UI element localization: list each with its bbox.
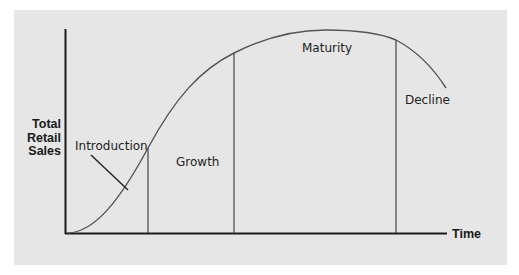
introduction-pointer-line: [91, 155, 128, 190]
stage-label-growth: Growth: [176, 156, 219, 168]
stage-label-maturity: Maturity: [302, 42, 352, 54]
y-axis-label-line-2: Retail: [27, 132, 61, 146]
stage-label-decline: Decline: [405, 94, 450, 106]
sales-curve: [68, 30, 446, 233]
x-axis-label: Time: [452, 228, 481, 241]
y-axis-label-line-3: Sales: [27, 145, 61, 159]
stage-label-introduction: Introduction: [75, 140, 148, 152]
y-axis-label-line-1: Total: [27, 118, 61, 132]
product-life-cycle-chart: [0, 0, 519, 275]
y-axis-label: Total Retail Sales: [27, 118, 61, 159]
